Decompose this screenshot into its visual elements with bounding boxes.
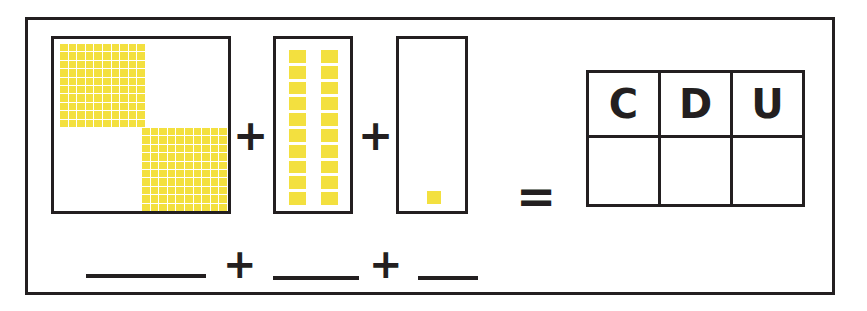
unit-square: [185, 136, 193, 143]
unit-square: [194, 204, 202, 211]
unit-square: [60, 86, 68, 93]
unit-square: [103, 61, 111, 68]
cdu-answer-hundreds[interactable]: [588, 137, 660, 206]
unit-square: [202, 170, 210, 177]
unit-square: [77, 86, 85, 93]
unit-square: [94, 86, 102, 93]
unit-square: [129, 78, 137, 85]
unit-square: [168, 136, 176, 143]
unit-square: [120, 44, 128, 51]
unit-square: [176, 170, 184, 177]
unit-square: [120, 61, 128, 68]
units-block-box[interactable]: [396, 36, 468, 214]
blank-tens[interactable]: [273, 276, 359, 280]
unit-square: [321, 192, 338, 205]
blank-hundreds[interactable]: [86, 274, 206, 278]
unit-square: [86, 94, 94, 101]
hundreds-block-box[interactable]: [51, 36, 231, 214]
unit-square: [151, 178, 159, 185]
unit-square: [103, 78, 111, 85]
unit-square: [77, 103, 85, 110]
unit-square: [151, 145, 159, 152]
unit-square: [60, 69, 68, 76]
unit-square: [86, 44, 94, 51]
unit-square: [129, 44, 137, 51]
unit-square: [112, 94, 120, 101]
unit-square: [69, 52, 77, 59]
unit-square: [129, 69, 137, 76]
unit-square: [103, 69, 111, 76]
unit-square: [94, 61, 102, 68]
unit-square: [137, 86, 145, 93]
unit-square: [94, 94, 102, 101]
unit-square: [211, 162, 219, 169]
unit-square: [142, 136, 150, 143]
unit-square: [211, 195, 219, 202]
unit-square: [142, 170, 150, 177]
unit-square: [77, 111, 85, 118]
unit-square: [137, 120, 145, 127]
unit-square: [94, 44, 102, 51]
unit-square: [185, 128, 193, 135]
blank-units[interactable]: [418, 276, 478, 280]
expression-answer-row: + +: [28, 236, 498, 292]
unit-square: [321, 50, 338, 63]
unit-square: [103, 120, 111, 127]
unit-square: [289, 50, 306, 63]
cdu-answer-tens[interactable]: [660, 137, 732, 206]
unit-square: [142, 145, 150, 152]
plus-icon: +: [223, 244, 257, 284]
unit-square: [211, 128, 219, 135]
unit-square: [151, 170, 159, 177]
unit-square: [142, 153, 150, 160]
cdu-header-units: U: [732, 72, 804, 137]
unit-square: [176, 153, 184, 160]
unit-square: [151, 162, 159, 169]
unit-square: [176, 128, 184, 135]
unit-square: [86, 111, 94, 118]
unit-square: [321, 145, 338, 158]
unit-square: [289, 176, 306, 189]
unit-square: [321, 129, 338, 142]
unit-square: [289, 192, 306, 205]
tens-block-box[interactable]: [273, 36, 353, 214]
unit-square: [202, 153, 210, 160]
unit-square: [69, 120, 77, 127]
unit-square: [120, 69, 128, 76]
unit-square: [60, 120, 68, 127]
unit-square: [185, 153, 193, 160]
unit-square: [194, 162, 202, 169]
unit-square: [185, 162, 193, 169]
unit-square: [142, 162, 150, 169]
unit-square: [202, 136, 210, 143]
unit-square: [112, 61, 120, 68]
cdu-answer-units[interactable]: [732, 137, 804, 206]
cdu-header-tens: D: [660, 72, 732, 137]
unit-square: [77, 44, 85, 51]
unit-square: [129, 120, 137, 127]
unit-square: [168, 128, 176, 135]
unit-square: [69, 94, 77, 101]
unit-square: [289, 129, 306, 142]
unit-square: [159, 153, 167, 160]
unit-square: [86, 52, 94, 59]
unit-square: [159, 162, 167, 169]
unit-square: [176, 187, 184, 194]
unit-square: [321, 161, 338, 174]
unit-square: [168, 187, 176, 194]
unit-square: [120, 78, 128, 85]
unit-square: [321, 176, 338, 189]
unit-square: [168, 170, 176, 177]
unit-square: [112, 52, 120, 59]
unit-square: [103, 103, 111, 110]
unit-square: [137, 52, 145, 59]
unit-square: [427, 191, 441, 204]
unit-square: [94, 120, 102, 127]
equals-icon: =: [516, 172, 556, 220]
hundred-flat: [60, 44, 145, 127]
unit-square: [194, 128, 202, 135]
unit-square: [159, 178, 167, 185]
unit-square: [103, 94, 111, 101]
unit-square: [168, 178, 176, 185]
unit-square: [202, 128, 210, 135]
